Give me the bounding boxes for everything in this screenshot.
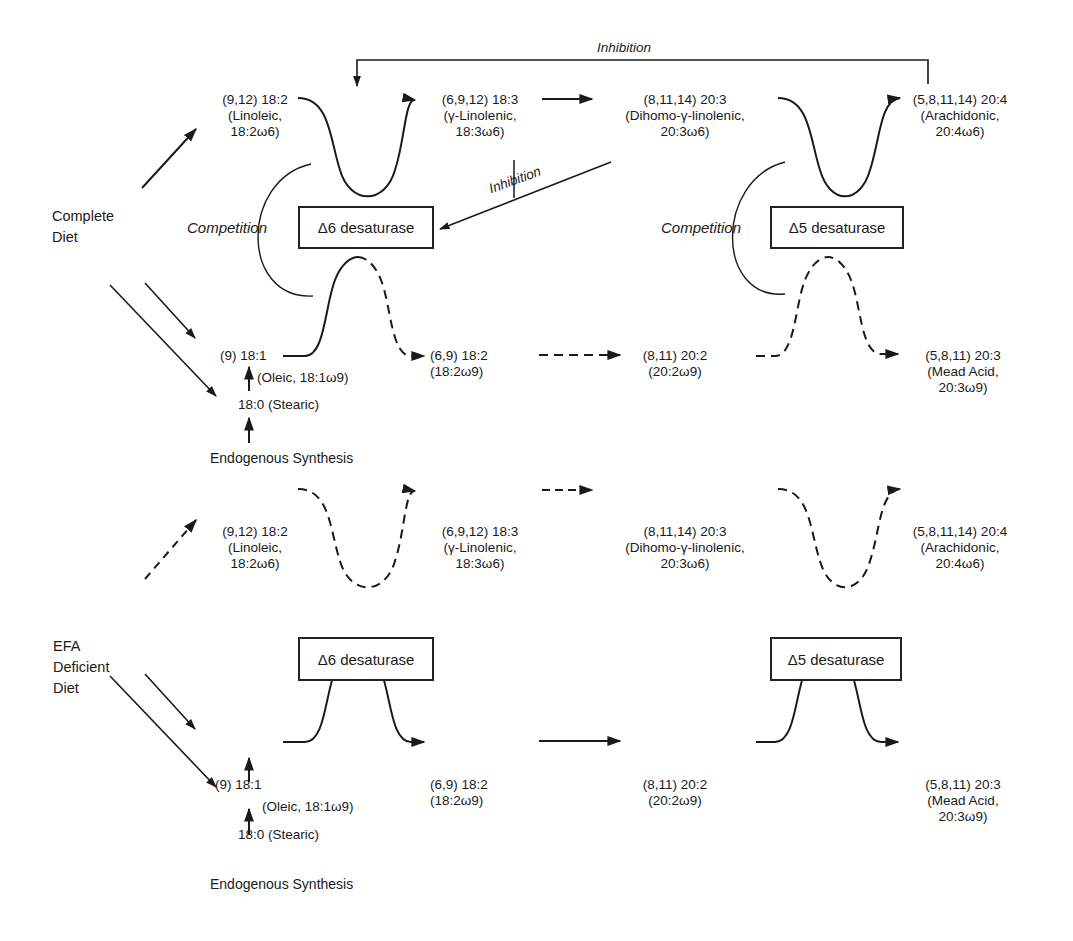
enzyme-d6-box: Δ6 desaturase — [298, 206, 434, 249]
inhibition-label-top: Inhibition — [597, 40, 651, 56]
d6-omega6-curve — [298, 489, 415, 587]
fatty-acid-20-2-omega9: (8,11) 20:2 (20:2ω9) — [630, 348, 720, 380]
fa-omega: 20:3ω6) — [600, 124, 770, 140]
diet-label-efa-deficient: EFA Deficient Diet — [53, 636, 109, 699]
fatty-acid-gamma-linolenic-efa: (6,9,12) 18:3 (γ-Linolenic, 18:3ω6) — [420, 524, 540, 572]
fa-formula: (8,11) 20:2 — [630, 777, 720, 793]
fa-omega: (20:2ω9) — [630, 364, 720, 380]
fatty-acid-arachidonic: (5,8,11,14) 20:4 (Arachidonic, 20:4ω6) — [900, 92, 1020, 140]
fa-formula: (8,11,14) 20:3 — [600, 92, 770, 108]
diet-to-linoleic-arrow — [145, 520, 196, 579]
fa-omega: 18:3ω6) — [420, 124, 540, 140]
fatty-acid-dihomo-gamma-linolenic: (8,11,14) 20:3 (Dihomo-γ-linolenic, 20:3… — [600, 92, 770, 140]
fa-omega: (18:2ω9) — [430, 364, 510, 380]
fatty-acid-18-2-omega9: (6,9) 18:2 (18:2ω9) — [430, 348, 510, 380]
fa-omega: (18:2ω9) — [430, 793, 510, 809]
enzyme-d6-label: Δ6 desaturase — [318, 651, 415, 668]
d5-omega9-curve — [756, 257, 898, 356]
fa-omega: 20:3ω9) — [908, 809, 1018, 825]
enzyme-d5-label: Δ5 desaturase — [788, 651, 885, 668]
fa-formula: (6,9) 18:2 — [430, 777, 510, 793]
fa-name: (Linoleic, — [205, 540, 305, 556]
stearic-label-efa: 18:0 (Stearic) — [238, 827, 319, 843]
fa-omega: 20:4ω6) — [900, 124, 1020, 140]
fa-formula: (8,11,14) 20:3 — [600, 524, 770, 540]
fa-name: (Arachidonic, — [900, 540, 1020, 556]
fa-name: (Mead Acid, — [908, 793, 1018, 809]
diet-to-linoleic-arrow — [142, 129, 196, 188]
fa-omega: 20:4ω6) — [900, 556, 1020, 572]
fa-formula: (6,9,12) 18:3 — [420, 92, 540, 108]
fatty-acid-linoleic-efa: (9,12) 18:2 (Linoleic, 18:2ω6) — [205, 524, 305, 572]
fatty-acid-gamma-linolenic: (6,9,12) 18:3 (γ-Linolenic, 18:3ω6) — [420, 92, 540, 140]
fa-omega: 20:3ω6) — [600, 556, 770, 572]
d6-omega9-curve-dashed — [358, 257, 424, 356]
fatty-acid-dihomo-gamma-linolenic-efa: (8,11,14) 20:3 (Dihomo-γ-linolenic, 20:3… — [600, 524, 770, 572]
diet-label-line: Diet — [53, 678, 109, 699]
fatty-acid-20-2-omega9-efa: (8,11) 20:2 (20:2ω9) — [630, 777, 720, 809]
d5-omega6-curve — [778, 98, 900, 196]
fatty-acid-18-2-omega9-efa: (6,9) 18:2 (18:2ω9) — [430, 777, 510, 809]
fa-formula: (6,9) 18:2 — [430, 348, 510, 364]
fatty-acid-oleic-name: (Oleic, 18:1ω9) — [257, 370, 349, 386]
enzyme-d6-label: Δ6 desaturase — [318, 219, 415, 236]
diet-label-line: Diet — [52, 227, 114, 248]
fa-formula: (6,9,12) 18:3 — [420, 524, 540, 540]
competition-label-d5: Competition — [661, 220, 741, 236]
fatty-acid-mead-acid: (5,8,11) 20:3 (Mead Acid, 20:3ω9) — [908, 348, 1018, 396]
enzyme-d5-box: Δ5 desaturase — [770, 206, 904, 249]
fa-name: (Mead Acid, — [908, 364, 1018, 380]
fa-name: (Dihomo-γ-linolenic, — [600, 540, 770, 556]
fa-name: (γ-Linolenic, — [420, 540, 540, 556]
d5-omega6-curve — [778, 489, 900, 587]
fa-formula: (9,12) 18:2 — [205, 524, 305, 540]
fa-omega: 18:2ω6) — [205, 556, 305, 572]
fa-formula: (5,8,11) 20:3 — [908, 348, 1018, 364]
fa-name: (Arachidonic, — [900, 108, 1020, 124]
fa-formula: (8,11) 20:2 — [630, 348, 720, 364]
diet-label-complete: Complete Diet — [52, 206, 114, 248]
fa-omega: (20:2ω9) — [630, 793, 720, 809]
fatty-acid-oleic-name-efa: (Oleic, 18:1ω9) — [262, 799, 354, 815]
fatty-acid-arachidonic-efa: (5,8,11,14) 20:4 (Arachidonic, 20:4ω6) — [900, 524, 1020, 572]
fa-formula: (5,8,11) 20:3 — [908, 777, 1018, 793]
stearic-label: 18:0 (Stearic) — [238, 397, 319, 413]
endogenous-synthesis-label-efa: Endogenous Synthesis — [210, 876, 353, 892]
fatty-acid-oleic-formula-efa: (9) 18:1 — [215, 777, 262, 793]
fa-omega: 20:3ω9) — [908, 380, 1018, 396]
fa-name: (γ-Linolenic, — [420, 108, 540, 124]
competition-label-d6: Competition — [187, 220, 267, 236]
fa-name: (Dihomo-γ-linolenic, — [600, 108, 770, 124]
enzyme-d5-label: Δ5 desaturase — [789, 219, 886, 236]
diet-label-line: Deficient — [53, 657, 109, 678]
diet-label-line: Complete — [52, 206, 114, 227]
fa-formula: (5,8,11,14) 20:4 — [900, 524, 1020, 540]
d6-omega9-curve-solid — [283, 257, 358, 356]
diet-label-line: EFA — [53, 636, 109, 657]
fa-name: (Linoleic, — [205, 108, 305, 124]
fa-omega: 18:2ω6) — [205, 124, 305, 140]
d6-omega6-curve — [298, 98, 415, 196]
fa-omega: 18:3ω6) — [420, 556, 540, 572]
fatty-acid-linoleic: (9,12) 18:2 (Linoleic, 18:2ω6) — [205, 92, 305, 140]
fa-formula: (9,12) 18:2 — [205, 92, 305, 108]
enzyme-d6-box-efa: Δ6 desaturase — [298, 637, 434, 681]
fatty-acid-mead-acid-efa: (5,8,11) 20:3 (Mead Acid, 20:3ω9) — [908, 777, 1018, 825]
enzyme-d5-box-efa: Δ5 desaturase — [770, 637, 902, 681]
endogenous-synthesis-label: Endogenous Synthesis — [210, 450, 353, 466]
fatty-acid-oleic-formula: (9) 18:1 — [220, 348, 267, 364]
fa-formula: (5,8,11,14) 20:4 — [900, 92, 1020, 108]
inhibition-feedback-line — [357, 60, 928, 86]
